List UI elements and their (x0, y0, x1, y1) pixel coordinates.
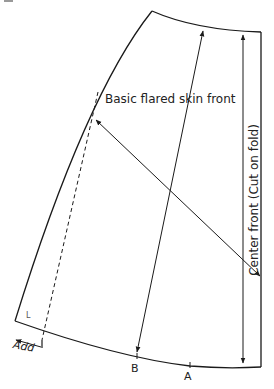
diagonal-arrow (96, 120, 260, 276)
center-front-label: Center front (Cut on fold) (247, 124, 261, 276)
corner-mark: L (26, 311, 30, 320)
skirt-pattern-diagram (0, 0, 274, 389)
arrow-to-b (137, 31, 203, 352)
point-b-label: B (131, 362, 139, 375)
point-a-label: A (184, 370, 192, 383)
side-seam-curve (15, 11, 152, 321)
hem-curve (15, 321, 261, 368)
pattern-outline (15, 11, 261, 368)
waist-curve (152, 11, 261, 32)
pattern-title: Basic flared skin front (105, 92, 235, 106)
